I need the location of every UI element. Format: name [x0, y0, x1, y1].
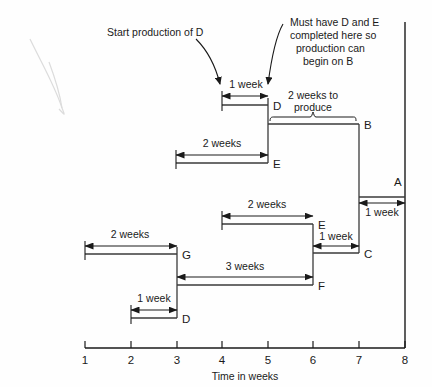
- node-label-d-top: D: [273, 100, 281, 112]
- node-label-a: A: [394, 176, 402, 188]
- annotation-must-have-line-1: Must have D and E: [290, 16, 379, 28]
- gantt-chart-svg: 1 2 3 4 5 6 7 8 Time in weeks: [0, 0, 432, 387]
- x-tick-label-7: 7: [356, 354, 362, 366]
- annotation-two-weeks-produce: 2 weeks to produce: [288, 89, 338, 113]
- x-tick-label-4: 4: [219, 354, 226, 366]
- dimension-label-c: 1 week: [319, 230, 353, 242]
- annotation-produce-line-1: 2 weeks to: [288, 89, 338, 101]
- gantt-chart-figure: 1 2 3 4 5 6 7 8 Time in weeks: [0, 0, 432, 387]
- leader-start-production: [196, 39, 220, 84]
- node-label-f: F: [318, 280, 325, 292]
- x-tick-label-5: 5: [265, 354, 271, 366]
- x-axis-title: Time in weeks: [212, 370, 279, 382]
- annotation-start-production: Start production of D: [107, 26, 204, 38]
- x-tick-labels: 1 2 3 4 5 6 7 8: [82, 354, 408, 366]
- dimension-labels: 1 week 2 weeks 1 week 2 weeks 1 week 2 w…: [111, 78, 400, 304]
- x-tick-label-3: 3: [174, 354, 180, 366]
- annotation-must-have: Must have D and E completed here so prod…: [290, 16, 379, 67]
- annotation-must-have-line-3: production can: [296, 42, 365, 54]
- dimension-label-a: 1 week: [365, 206, 399, 218]
- dimension-label-e-mid: 2 weeks: [248, 198, 287, 210]
- node-label-c: C: [364, 248, 372, 260]
- annotation-leaders: [196, 24, 283, 84]
- annotation-start-production-text: Start production of D: [107, 26, 204, 38]
- task-step-paths: [85, 98, 405, 318]
- annotation-produce-line-2: produce: [294, 101, 332, 113]
- brace-two-weeks-produce: [270, 112, 356, 121]
- axes: [85, 22, 405, 348]
- x-tick-label-2: 2: [128, 354, 134, 366]
- annotation-must-have-line-4: begin on B: [303, 55, 353, 67]
- annotation-must-have-line-2: completed here so: [290, 29, 377, 41]
- dimension-label-d-low: 1 week: [137, 292, 171, 304]
- node-label-b: B: [364, 119, 372, 131]
- dimension-label-d-top: 1 week: [229, 78, 263, 90]
- scan-artifact: [30, 39, 64, 114]
- x-tick-label-6: 6: [310, 354, 316, 366]
- dimension-label-e-top: 2 weeks: [203, 137, 242, 149]
- node-label-d-low: D: [182, 313, 190, 325]
- x-tick-label-8: 8: [402, 354, 408, 366]
- x-tick-label-1: 1: [82, 354, 88, 366]
- node-label-g: G: [182, 249, 191, 261]
- node-label-e-top: E: [273, 158, 281, 170]
- dimension-lines: [85, 91, 405, 324]
- leader-must-have: [268, 24, 283, 84]
- dimension-label-f: 3 weeks: [226, 260, 265, 272]
- dimension-label-g: 2 weeks: [111, 228, 150, 240]
